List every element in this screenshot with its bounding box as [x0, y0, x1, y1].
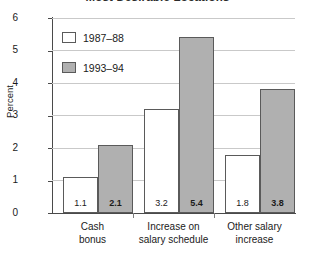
y-tick-label-3: 3	[2, 109, 18, 120]
y-tick-label-1: 1	[2, 174, 18, 185]
chart-title: Most Desirable Locations	[0, 0, 315, 3]
bar-value-label: 1.1	[64, 198, 97, 208]
y-tick-label-2: 2	[2, 142, 18, 153]
legend-swatch-icon	[62, 32, 76, 43]
legend-label: 1993–94	[83, 62, 124, 74]
category-separator-2	[214, 213, 215, 218]
bar-increase-on-salary-schedule-1993-94[interactable]: 5.4	[179, 37, 214, 213]
category-separator-1	[133, 213, 134, 218]
x-category-label-cash-bonus: Cash bonus	[52, 221, 133, 246]
bar-other-salary-increase-1987-88[interactable]: 1.8	[225, 155, 260, 213]
bar-value-label: 3.2	[145, 198, 178, 208]
y-tick-label-6: 6	[2, 12, 18, 23]
gridline-6	[52, 18, 295, 19]
category-line: increase	[214, 234, 295, 247]
y-tick-label-0: 0	[2, 207, 18, 218]
chart-legend: 1987–88 1993–94	[62, 28, 124, 88]
bar-other-salary-increase-1993-94[interactable]: 3.8	[260, 89, 295, 213]
category-line: bonus	[52, 234, 133, 247]
x-category-label-other-salary-increase: Other salary increase	[214, 221, 295, 246]
legend-item-1993-94[interactable]: 1993–94	[62, 58, 124, 77]
bar-value-label: 1.8	[226, 198, 259, 208]
category-line: Other salary	[214, 221, 295, 234]
y-tick-label-5: 5	[2, 44, 18, 55]
bar-value-label: 2.1	[99, 198, 132, 208]
bar-cash-bonus-1987-88[interactable]: 1.1	[63, 177, 98, 213]
legend-item-1987-88[interactable]: 1987–88	[62, 28, 124, 47]
category-line: salary schedule	[133, 234, 214, 247]
bar-increase-on-salary-schedule-1987-88[interactable]: 3.2	[144, 109, 179, 213]
bar-chart-figure: Most Desirable Locations Percent 6 5 4 3…	[0, 0, 315, 264]
bar-cash-bonus-1993-94[interactable]: 2.1	[98, 145, 133, 213]
x-category-label-increase-on-salary-schedule: Increase on salary schedule	[133, 221, 214, 246]
bar-value-label: 3.8	[261, 198, 294, 208]
y-tick-label-4: 4	[2, 77, 18, 88]
bar-value-label: 5.4	[180, 198, 213, 208]
category-line: Cash	[52, 221, 133, 234]
legend-swatch-icon	[62, 62, 76, 73]
x-axis-line	[52, 213, 296, 214]
legend-label: 1987–88	[83, 32, 124, 44]
category-line: Increase on	[133, 221, 214, 234]
